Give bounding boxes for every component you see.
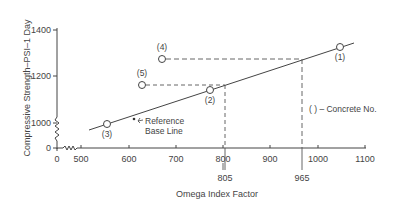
y-axis-title: Compressive Strength–PSI–1 Day (22, 19, 32, 157)
point-3 (104, 121, 111, 128)
point-label-5: (5) (137, 68, 148, 78)
y-tick-1200: 1200 (31, 71, 51, 81)
point-1 (337, 44, 344, 51)
chart: 1400 1200 1000 0 0 500 600 700 800 900 1… (0, 0, 396, 211)
x-tick-800: 800 (215, 154, 230, 164)
x-tick-900: 900 (262, 154, 277, 164)
point-label-3: (3) (102, 129, 113, 139)
point-label-2: (2) (205, 95, 216, 105)
projection-label-965: 965 (294, 173, 309, 183)
point-label-1: (1) (335, 52, 346, 62)
y-axis (53, 28, 59, 149)
point-5 (139, 82, 146, 89)
x-tick-500: 500 (73, 154, 88, 164)
reference-base-line (89, 43, 354, 130)
x-axis (57, 145, 366, 151)
projection-label-805: 805 (217, 173, 232, 183)
x-tick-0: 0 (54, 154, 59, 164)
reference-marker-dot (133, 118, 136, 121)
y-tick-0: 0 (46, 143, 51, 153)
concrete-no-legend: ( ) – Concrete No. (309, 104, 377, 114)
x-tick-1000: 1000 (308, 154, 328, 164)
y-tick-1400: 1400 (31, 25, 51, 35)
point-label-4: (4) (157, 42, 168, 52)
point-2 (207, 87, 214, 94)
y-tick-1000: 1000 (31, 118, 51, 128)
x-tick-1100: 1100 (355, 154, 374, 164)
reference-label-line2: Base Line (145, 126, 183, 136)
reference-label-line1: Reference (145, 116, 184, 126)
x-tick-700: 700 (168, 154, 183, 164)
arrow-icon (138, 118, 143, 123)
x-axis-title: Omega Index Factor (176, 189, 258, 199)
point-4 (159, 56, 166, 63)
x-tick-600: 600 (121, 154, 136, 164)
